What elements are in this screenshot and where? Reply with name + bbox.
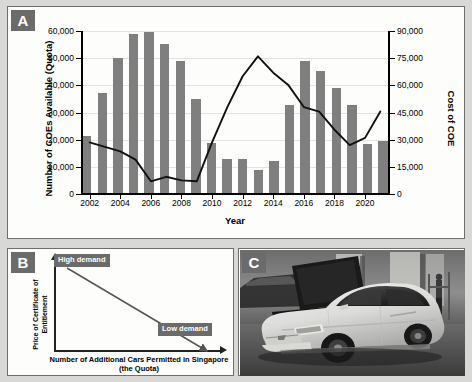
y-axis-left-tick: [76, 140, 81, 141]
y-axis-left-tick: [76, 85, 81, 86]
x-axis-tick-label: 2012: [226, 198, 260, 208]
y-axis-right-tick-label: 75,000: [397, 53, 443, 63]
y-axis-right-tick-label: 45,000: [397, 108, 443, 118]
high-demand-label: High demand: [54, 254, 110, 267]
y-axis-right-tick-label: 0: [397, 189, 443, 199]
figure-container: Number of COEs Available (Quota) Cost of…: [0, 0, 472, 382]
y-axis-right-tick-label: 90,000: [397, 26, 443, 36]
y-axis-left-tick-label: 10,000: [30, 162, 74, 172]
x-axis-tick-label: 2018: [317, 198, 351, 208]
y-axis-right-tick: [390, 113, 395, 114]
y-axis-left-tick-label: 60,000: [30, 26, 74, 36]
y-axis-left-tick: [76, 31, 81, 32]
low-demand-label: Low demand: [158, 323, 212, 336]
y-axis-right-tick: [390, 85, 395, 86]
bottom-caption: [0, 376, 472, 382]
y-axis-right-tick-label: 30,000: [397, 135, 443, 145]
x-axis: [81, 193, 390, 195]
demand-x-axis-title: Number of Additional Cars Permitted in S…: [48, 355, 230, 373]
y-axis-right-tick-label: 15,000: [397, 162, 443, 172]
x-axis-tick-label: 2014: [256, 198, 290, 208]
y-axis-right-tick-label: 60,000: [397, 80, 443, 90]
x-axis-tick-label: 2008: [164, 198, 198, 208]
panel-label-c: C: [242, 252, 266, 273]
y-axis-left-tick-label: 50,000: [30, 53, 74, 63]
panel-label-b: B: [11, 252, 35, 273]
y-axis-left-tick: [76, 167, 81, 168]
x-axis-tick-label: 2006: [134, 198, 168, 208]
y-axis-right-tick: [390, 167, 395, 168]
y-axis-left-tick-label: 20,000: [30, 135, 74, 145]
y-axis-left-tick-label: 40,000: [30, 80, 74, 90]
y-axis-right-tick: [390, 31, 395, 32]
y-axis-left-tick: [76, 113, 81, 114]
y-axis-left-tick: [76, 194, 81, 195]
y-axis-left-tick-label: 0: [30, 189, 74, 199]
x-axis-title: Year: [82, 215, 388, 226]
x-axis-tick-label: 2020: [348, 198, 382, 208]
y-axis-left-tick-label: 30,000: [30, 108, 74, 118]
y-axis-title-right: Cost of COE: [446, 34, 457, 204]
panel-label-a: A: [11, 10, 35, 31]
car-photo-illustration: [240, 250, 465, 376]
panel-a: Number of COEs Available (Quota) Cost of…: [7, 6, 465, 239]
car-photograph: [240, 250, 465, 376]
x-axis-tick-label: 2010: [195, 198, 229, 208]
y-axis-left-tick: [76, 58, 81, 59]
y-axis-right-tick: [390, 140, 395, 141]
x-axis-tick-label: 2002: [73, 198, 107, 208]
y-axis-left: [81, 31, 83, 194]
panel-b: High demand Low demand Price of Certific…: [7, 248, 234, 376]
panel-c: [238, 248, 465, 376]
y-axis-right-tick: [390, 194, 395, 195]
x-axis-tick-label: 2016: [287, 198, 321, 208]
cost-line-series: [82, 31, 388, 194]
plot-area: [82, 31, 388, 194]
demand-y-axis-title: Price of Certificate of Entitlement: [32, 260, 49, 370]
x-axis-tick-label: 2004: [103, 198, 137, 208]
demand-curve-diagram: High demand Low demand Price of Certific…: [8, 249, 233, 375]
y-axis-right-tick: [390, 58, 395, 59]
coe-quota-cost-chart: Number of COEs Available (Quota) Cost of…: [8, 7, 464, 238]
